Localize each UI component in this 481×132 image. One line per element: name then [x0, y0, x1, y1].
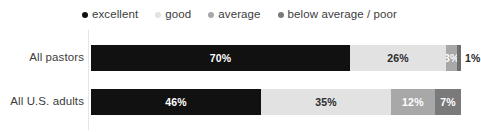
legend-item-label: below average / poor — [288, 9, 397, 21]
legend-item-good[interactable]: good — [155, 9, 191, 21]
legend-dot-icon — [82, 12, 88, 18]
bar-segment-value-label: 1% — [465, 45, 481, 71]
stacked-bar: 46%35%12%7% — [91, 89, 461, 115]
legend-item-label: excellent — [92, 9, 138, 21]
stacked-bar: 70%26%3%1% — [91, 45, 461, 71]
bar-segment-value-label: 46% — [165, 97, 187, 108]
legend-dot-icon — [208, 12, 214, 18]
legend-item-below-average-poor[interactable]: below average / poor — [278, 9, 397, 21]
legend-dot-icon — [278, 12, 284, 18]
legend-item-label: average — [218, 9, 260, 21]
bar-segment: 7% — [435, 89, 461, 115]
bar-segment-value-label: 12% — [402, 97, 424, 108]
row-label: All pastors — [0, 52, 84, 64]
bar-segment: 46% — [91, 89, 261, 115]
bar-segment: 70% — [91, 45, 350, 71]
bar-segment — [457, 45, 461, 71]
bar-segment-value-label: 7% — [440, 97, 456, 108]
legend-item-excellent[interactable]: excellent — [82, 9, 138, 21]
bar-segment: 3% — [446, 45, 457, 71]
chart-row-all-us-adults: All U.S. adults 46%35%12%7% — [0, 89, 479, 115]
bar-segment-value-label: 3% — [446, 53, 457, 64]
row-label: All U.S. adults — [0, 96, 84, 108]
bar-segment: 26% — [350, 45, 446, 71]
bar-segment: 35% — [261, 89, 391, 115]
bar-segment: 12% — [391, 89, 435, 115]
bar-segment-value-label: 26% — [387, 53, 409, 64]
bar-segment-value-label: 70% — [210, 53, 232, 64]
chart-row-all-pastors: All pastors 70%26%3%1% — [0, 45, 479, 71]
legend-item-average[interactable]: average — [208, 9, 260, 21]
legend-dot-icon — [155, 12, 161, 18]
chart-legend: excellent good average below average / p… — [0, 6, 479, 24]
legend-item-label: good — [165, 9, 191, 21]
bar-segment-value-label: 35% — [315, 97, 337, 108]
